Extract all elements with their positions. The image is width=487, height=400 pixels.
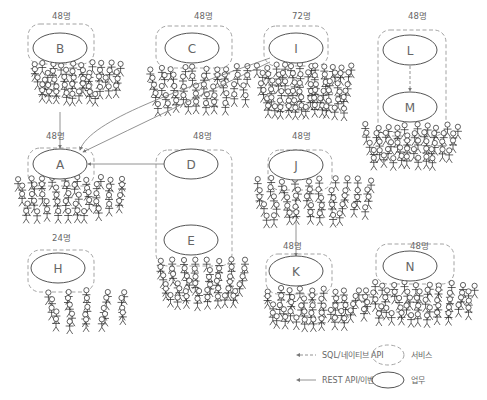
task-m: M <box>383 92 437 122</box>
arrowhead-icon <box>296 378 300 382</box>
task-j: J <box>269 150 323 180</box>
person-icon <box>172 98 180 113</box>
headcount-label: 48명 <box>52 11 71 21</box>
crowd-n <box>369 280 478 328</box>
architecture-diagram: BCILMADEJHKN 48명48명72명48명48명48명48명24명48명… <box>0 0 487 400</box>
legend-item-rest: REST API/이벤트 <box>296 375 381 385</box>
task-d: D <box>164 149 218 179</box>
legend-label-sql: SQL/네이티브 API <box>322 350 384 360</box>
person-icon <box>52 89 60 104</box>
task-b: B <box>33 33 87 63</box>
person-icon <box>264 293 272 308</box>
headcount-label: 48명 <box>194 11 213 21</box>
person-icon <box>360 307 368 322</box>
person-icon <box>68 91 76 106</box>
person-icon <box>286 210 294 225</box>
person-icon <box>221 100 229 115</box>
person-icon <box>414 155 422 170</box>
connections <box>60 58 410 256</box>
person-icon <box>455 302 463 317</box>
task-label: H <box>53 262 62 276</box>
person-icon <box>302 104 310 119</box>
person-icon <box>174 295 182 310</box>
task-label: C <box>188 42 196 56</box>
legend: SQL/네이티브 API REST API/이벤트 서비스 업무 <box>296 345 432 388</box>
crowd-h <box>44 288 128 334</box>
person-icon <box>331 105 339 120</box>
crowd-k <box>264 285 372 332</box>
task-h: H <box>31 253 85 283</box>
person-icon <box>253 63 261 78</box>
legend-item-task: 업무 <box>372 372 425 388</box>
person-icon <box>347 308 355 323</box>
person-icon <box>371 297 379 312</box>
person-icon <box>82 317 90 332</box>
crowd-j <box>254 175 375 228</box>
person-icon <box>403 154 411 169</box>
edge-i-to-a <box>83 62 270 152</box>
person-icon <box>340 316 348 331</box>
person-icon <box>423 313 431 328</box>
task-label: J <box>293 159 298 173</box>
person-icon <box>445 148 453 163</box>
headcount-label: 48명 <box>292 131 311 141</box>
person-icon <box>433 310 441 325</box>
headcount-label: 48명 <box>408 11 427 21</box>
task-c: C <box>165 33 219 63</box>
person-icon <box>66 319 74 334</box>
task-i: I <box>269 33 323 63</box>
person-icon <box>301 317 309 332</box>
headcount-label: 48명 <box>410 241 429 251</box>
person-icon <box>291 105 299 120</box>
person-icon <box>184 100 192 115</box>
headcount-label: 72명 <box>292 11 311 21</box>
person-icon <box>105 201 113 216</box>
task-label: A <box>56 158 65 172</box>
person-icon <box>285 103 293 118</box>
person-icon <box>214 294 222 309</box>
person-icon <box>164 101 172 116</box>
person-icon <box>80 209 88 224</box>
person-icon <box>370 155 378 170</box>
crowd-i <box>253 62 355 122</box>
headcount-label: 48명 <box>193 131 212 141</box>
task-label: B <box>56 42 64 56</box>
person-icon <box>439 147 447 162</box>
person-icon <box>63 90 71 105</box>
crowd-m <box>361 121 462 170</box>
person-icon <box>38 88 46 103</box>
task-label: L <box>407 44 414 58</box>
task-n: N <box>383 251 437 281</box>
person-icon <box>318 316 326 331</box>
person-icon <box>242 93 250 108</box>
person-icon <box>329 212 337 227</box>
person-icon <box>64 208 72 223</box>
person-icon <box>281 314 289 329</box>
person-icon <box>336 211 344 226</box>
person-icon <box>340 106 348 121</box>
person-icon <box>331 315 339 330</box>
person-icon <box>194 296 202 311</box>
person-icon <box>389 156 397 171</box>
person-icon <box>183 294 191 309</box>
crowd-b <box>31 60 125 107</box>
person-icon <box>105 84 113 99</box>
person-icon <box>271 104 279 119</box>
task-label: E <box>187 234 195 248</box>
crowd-c <box>146 64 251 117</box>
crowd-e <box>157 257 250 311</box>
person-icon <box>75 89 83 104</box>
person-icon <box>445 310 453 325</box>
task-label: K <box>292 265 301 279</box>
person-icon <box>273 314 281 329</box>
person-icon <box>256 194 264 209</box>
person-icon <box>292 315 300 330</box>
legend-item-sql: SQL/네이티브 API <box>296 350 384 360</box>
person-icon <box>375 311 383 326</box>
person-icon <box>316 211 324 226</box>
person-icon <box>22 208 30 223</box>
solid-ellipse-icon <box>372 372 404 388</box>
task-label: M <box>405 101 415 115</box>
person-icon <box>322 104 330 119</box>
person-icon <box>95 206 103 221</box>
